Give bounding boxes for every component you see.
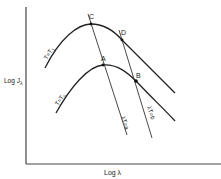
- point-a: [102, 64, 105, 67]
- point-a-label: A: [101, 55, 106, 62]
- point-c: [90, 23, 93, 26]
- line-a-label: λT=a: [120, 115, 130, 130]
- point-b-label: B: [136, 72, 141, 79]
- point-b: [134, 79, 138, 83]
- x-axis-label: Log λ: [104, 169, 122, 177]
- point-d-label: D: [121, 29, 126, 36]
- y-axis-label: Log Jλ: [4, 77, 23, 86]
- point-d: [121, 39, 124, 42]
- line-b-label: λT=b: [146, 105, 156, 120]
- radiation-diagram: Log Jλ Log λ T=T1 T=T0 λT=a λT=b C D A B: [0, 0, 221, 179]
- curve-t0: [56, 65, 175, 121]
- point-c-label: C: [89, 13, 94, 20]
